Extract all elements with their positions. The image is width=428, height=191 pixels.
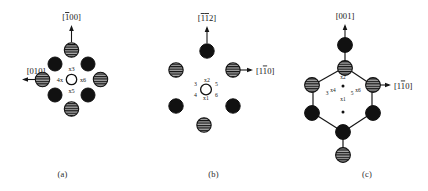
svg-text:[110]: [110] [256,66,274,76]
crystal-structure-figure: [100] [010] [0,0,428,191]
solid-atom [336,125,351,140]
hatched-atom [226,63,240,77]
svg-text:[001]: [001] [336,11,355,21]
svg-text:[112]: [112] [198,13,216,23]
hatched-atom [336,148,351,163]
hatched-atom [93,72,107,86]
site-label-2: x2 [340,74,346,80]
hatched-atom [197,118,211,132]
site-label-4: 4x [57,76,64,83]
solid-atom [48,88,62,102]
direction-up-label: [112] [198,13,216,23]
interior-marker [342,111,345,114]
site-label-6: 6 [215,92,218,98]
direction-right-label: [110] [394,81,412,91]
hatched-atom [366,78,381,93]
site-label-6: x6 [80,76,86,83]
site-label-2: x2 [204,77,210,83]
site-label-4: x4 [330,87,336,93]
solid-atom [169,99,183,113]
panel-b: [112] [110] [143,0,288,191]
hatched-atom [35,72,49,86]
svg-text:[110]: [110] [394,81,412,91]
site-label-3: x3 [68,65,74,72]
site-label-3: 3 [326,90,329,96]
solid-atom [338,38,353,53]
site-label-3: 3 [194,81,197,87]
direction-up-label: [001] [336,11,355,21]
site-label-6: x6 [355,87,361,93]
site-label-1: x1 [203,95,209,101]
solid-atom [226,99,240,113]
solid-atom [200,44,214,58]
panel-a-caption: (a) [0,169,134,179]
panel-c-caption: (c) [297,169,428,179]
solid-atom [366,106,381,121]
panel-b-caption: (b) [141,169,286,179]
site-label-5: 5 [351,90,354,96]
open-atom [66,74,76,84]
solid-atom [48,57,62,71]
hatched-atom [305,78,320,93]
panel-c-canvas: [001] [110] [288,0,428,191]
interior-marker [342,85,345,88]
direction-up-arrow [69,25,74,42]
hatched-atom [64,102,78,116]
hatched-atom [64,43,78,57]
site-label-4: 4 [194,92,197,98]
site-label-1: x1 [340,96,346,102]
site-label-5: x5 [68,87,74,94]
panel-b-canvas: [112] [110] [143,0,288,191]
panel-c: [001] [110] [288,0,428,191]
direction-up-label: [100] [62,12,81,22]
panel-a-canvas: [100] [010] [0,0,143,191]
svg-text:[100]: [100] [62,12,81,22]
direction-up-arrow [205,26,210,43]
solid-atom [81,88,95,102]
open-atom [201,84,212,95]
site-label-5: 5 [215,81,218,87]
hatched-atom [169,63,183,77]
solid-atom [305,106,320,121]
direction-right-label: [110] [256,66,274,76]
panel-a: [100] [010] [0,0,143,191]
solid-atom [81,57,95,71]
